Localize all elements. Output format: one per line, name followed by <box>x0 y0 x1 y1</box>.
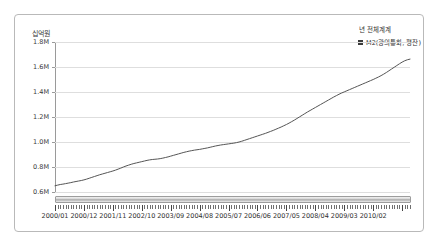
x-axis-tick <box>255 205 256 209</box>
y-axis-tick-label: 1.8M <box>33 38 49 46</box>
x-axis-tick <box>215 205 216 209</box>
x-axis-tick <box>334 205 335 209</box>
x-axis-tick <box>87 205 88 209</box>
x-axis-tick-label: 2002/10 <box>128 212 155 220</box>
x-axis-tick <box>221 205 222 209</box>
x-axis-tick <box>89 205 90 209</box>
x-axis-tick-label: 2008/04 <box>302 212 329 220</box>
x-axis-tick <box>315 205 316 211</box>
x-axis-tick <box>55 205 56 211</box>
x-axis-tick <box>371 205 372 209</box>
x-axis-tick <box>260 205 261 209</box>
x-axis-tick-label: 2006/06 <box>244 212 271 220</box>
x-axis-tick <box>376 205 377 209</box>
x-axis-tick <box>126 205 127 209</box>
x-axis-tick-label: 2000/12 <box>70 212 97 220</box>
x-axis-tick <box>73 205 74 209</box>
x-axis-labels: 2000/012000/122001/112002/102003/092004/… <box>0 212 439 224</box>
x-axis-tick <box>339 205 340 209</box>
x-axis-tick <box>137 205 138 209</box>
x-axis-tick <box>405 205 406 209</box>
x-axis-tick <box>231 205 232 209</box>
x-axis-tick <box>60 205 61 209</box>
x-axis-tick <box>168 205 169 209</box>
x-axis-tick <box>357 205 358 209</box>
y-axis-tick-label: 0.8M <box>33 163 49 171</box>
x-axis-tick <box>342 205 343 209</box>
x-axis-tick <box>242 205 243 209</box>
y-axis-tick-mark <box>52 192 55 193</box>
series-line-m2 <box>55 42 410 192</box>
y-axis-tick-label: 1.6M <box>33 63 49 71</box>
x-axis-tick <box>213 205 214 209</box>
x-axis-tick <box>300 205 301 209</box>
x-axis-tick <box>147 205 148 209</box>
x-axis-tick <box>347 205 348 209</box>
x-axis-tick <box>394 205 395 209</box>
x-axis-tick <box>252 205 253 209</box>
x-axis-tick <box>105 205 106 209</box>
x-axis-tick <box>323 205 324 209</box>
x-axis-tick <box>350 205 351 209</box>
x-axis-tick <box>310 205 311 209</box>
x-axis-tick <box>402 205 403 211</box>
x-axis-tick <box>171 205 172 211</box>
x-axis-tick <box>181 205 182 209</box>
legend-title: 년 전체계계 <box>358 24 421 34</box>
x-axis-tick <box>68 205 69 209</box>
x-axis-tick <box>155 205 156 209</box>
x-axis-tick <box>384 205 385 209</box>
x-axis-tick <box>313 205 314 209</box>
x-axis-tick <box>326 205 327 209</box>
x-axis-tick <box>344 205 345 211</box>
x-axis-tick <box>302 205 303 209</box>
x-axis-tick <box>271 205 272 209</box>
x-axis-tick <box>158 205 159 209</box>
x-axis-tick <box>318 205 319 209</box>
y-axis-tick-label: 1.4M <box>33 88 49 96</box>
x-axis-tick-label: 2003/09 <box>157 212 184 220</box>
x-axis-tick <box>81 205 82 209</box>
x-axis-tick <box>226 205 227 209</box>
x-axis-tick <box>247 205 248 209</box>
y-axis-unit-label: 십억원 <box>32 28 50 38</box>
x-axis-tick <box>229 205 230 211</box>
x-axis-tick <box>292 205 293 209</box>
x-axis-tick <box>257 205 258 211</box>
x-axis-tick <box>307 205 308 209</box>
x-axis-tick <box>392 205 393 209</box>
x-axis-tick <box>321 205 322 209</box>
x-axis-tick <box>365 205 366 209</box>
x-axis-tick <box>173 205 174 209</box>
x-axis-tick <box>160 205 161 209</box>
x-axis-tick <box>102 205 103 209</box>
x-axis-tick <box>71 205 72 209</box>
x-axis-tick <box>100 205 101 209</box>
x-axis-tick <box>389 205 390 209</box>
x-axis-tick <box>205 205 206 209</box>
x-axis-tick <box>328 205 329 209</box>
horizontal-range-scrollbar[interactable] <box>55 196 411 203</box>
x-axis-tick <box>123 205 124 209</box>
x-axis-tick <box>250 205 251 209</box>
chart-screenshot: 십억원 년 전체계계 M2(광의통화, 평잔) 1.8M1.6M1.4M1.2M… <box>0 0 439 250</box>
x-axis-tick <box>286 205 287 211</box>
x-axis-tick <box>279 205 280 209</box>
x-axis-tick <box>305 205 306 209</box>
x-axis-tick <box>150 205 151 209</box>
x-axis-tick-label: 2000/01 <box>41 212 68 220</box>
x-axis-tick <box>192 205 193 209</box>
x-axis-tick <box>352 205 353 209</box>
y-axis-tick-label: 1.0M <box>33 138 49 146</box>
x-axis-tick <box>218 205 219 209</box>
y-axis-tick-label: 0.6M <box>33 188 49 196</box>
x-axis-tick <box>189 205 190 209</box>
x-axis-tick <box>110 205 111 209</box>
x-axis-tick <box>115 205 116 209</box>
x-axis-tick <box>129 205 130 209</box>
x-axis-tick <box>131 205 132 209</box>
x-axis-tick <box>179 205 180 209</box>
x-axis-tick <box>281 205 282 209</box>
x-axis-tick <box>355 205 356 209</box>
gridline <box>55 192 410 193</box>
